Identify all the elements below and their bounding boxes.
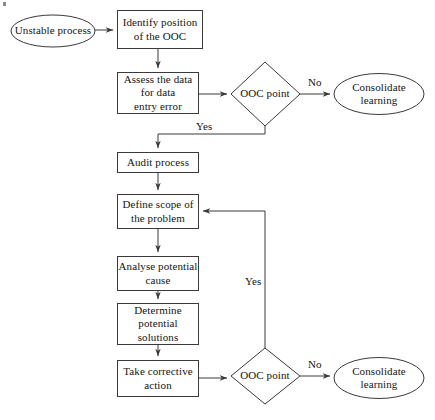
node-label-ooc-point-bottom: OOC point xyxy=(232,365,298,387)
node-label-assess-data: Assess the data for data entry error xyxy=(118,73,198,113)
node-label-unstable-process: Unstable process xyxy=(11,15,95,47)
edge-label-no-bottom: No xyxy=(308,358,322,370)
node-label-analyse-cause: Analyse potential cause xyxy=(117,257,199,290)
flowchart-canvas: Unstable process Identify position of th… xyxy=(0,0,435,420)
node-label-define-scope: Define scope of the problem xyxy=(118,195,198,228)
node-label-audit-process: Audit process xyxy=(118,153,198,172)
node-label-identify-position: Identify position of the OOC xyxy=(118,11,202,48)
node-label-consolidate-learning-top: Consolidate learning xyxy=(337,78,421,110)
edge-label-yes-top: Yes xyxy=(196,120,212,132)
node-label-take-corrective-action: Take corrective action xyxy=(118,361,198,396)
node-label-consolidate-learning-bottom: Consolidate learning xyxy=(337,362,421,394)
node-label-determine-solutions: Determine potential solutions xyxy=(118,304,198,344)
edge-label-yes-bottom: Yes xyxy=(245,275,261,287)
node-label-ooc-point-top: OOC point xyxy=(232,83,298,105)
edge-label-no-top: No xyxy=(308,76,322,88)
flowchart-shapes-and-connectors xyxy=(0,0,435,420)
